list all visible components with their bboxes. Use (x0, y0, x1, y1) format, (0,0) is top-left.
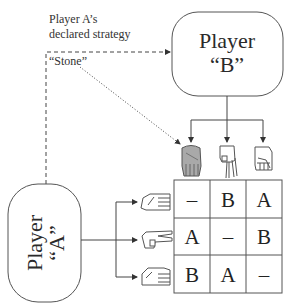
player-a-branches (81, 202, 137, 277)
declared-strategy-dashed-arrow (46, 52, 170, 184)
matrix-cell: B (185, 263, 199, 287)
annotation-line-3: “Stone” (49, 54, 87, 68)
row-hand-paper-icon (141, 194, 170, 210)
player-b-label: Player (199, 28, 256, 53)
matrix-cell: – (258, 263, 270, 287)
player-b-name: “B” (210, 52, 244, 77)
stone-dotted-arrow (80, 67, 180, 144)
matrix-cell: A (220, 263, 236, 287)
game-diagram: Player A’s declared strategy “Stone” Pla… (0, 0, 292, 306)
column-hand-scissors-icon (220, 146, 237, 178)
annotation-line-2: declared strategy (49, 27, 131, 41)
matrix-cell: – (186, 188, 198, 212)
column-hand-paper-icon (182, 146, 201, 177)
matrix-cell: – (222, 225, 234, 249)
column-hand-stone-icon (255, 147, 272, 170)
matrix-cell: A (256, 188, 272, 212)
matrix-cell: A (184, 225, 200, 249)
annotation-line-1: Player A’s (49, 12, 98, 26)
player-b-branches (191, 96, 263, 142)
matrix-cell: B (221, 188, 235, 212)
matrix-cell: B (257, 225, 271, 249)
row-hand-scissors-icon (142, 231, 172, 248)
player-a-name: “A” (44, 225, 69, 260)
row-hand-stone-icon (142, 268, 170, 285)
